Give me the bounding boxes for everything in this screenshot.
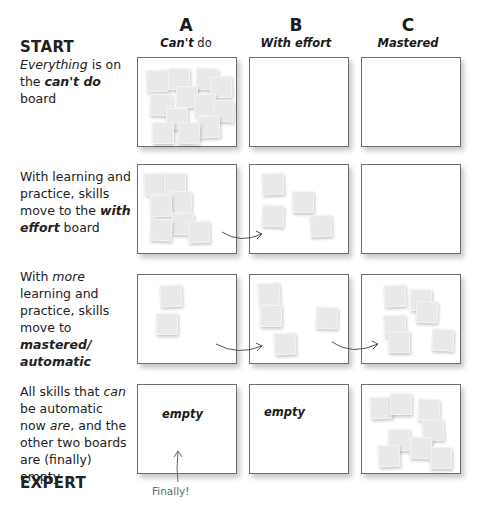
sticky-note bbox=[388, 331, 410, 353]
sticky-note bbox=[145, 69, 168, 92]
column-label: Can't do bbox=[136, 36, 236, 50]
column-letter: C bbox=[358, 16, 458, 34]
curved-arrow-icon bbox=[218, 222, 268, 246]
empty-label: empty bbox=[264, 405, 305, 419]
board: empty bbox=[137, 384, 237, 474]
column-header-c: C Mastered bbox=[358, 16, 458, 50]
board bbox=[249, 57, 349, 147]
up-arrow-icon bbox=[170, 448, 186, 484]
sticky-note bbox=[197, 115, 220, 138]
sticky-note bbox=[177, 121, 200, 144]
sticky-note bbox=[415, 300, 438, 323]
sticky-note bbox=[156, 313, 178, 335]
sticky-note bbox=[377, 444, 400, 467]
sticky-note bbox=[261, 172, 284, 195]
expert-heading: EXPERT bbox=[20, 474, 132, 492]
sticky-note bbox=[273, 332, 296, 355]
sticky-note bbox=[159, 284, 182, 307]
row-description: With learning and practice, skills move … bbox=[20, 168, 132, 236]
board bbox=[361, 384, 461, 474]
sticky-note bbox=[152, 122, 174, 144]
row-heading: START bbox=[20, 38, 132, 56]
empty-label: empty bbox=[162, 407, 203, 421]
sticky-note bbox=[431, 328, 454, 351]
finally-annotation: Finally! bbox=[152, 485, 190, 497]
sticky-note bbox=[292, 191, 314, 213]
sticky-note bbox=[260, 305, 282, 327]
sticky-note bbox=[187, 220, 210, 243]
sticky-note bbox=[169, 190, 192, 213]
board bbox=[361, 57, 461, 147]
column-label: Mastered bbox=[358, 36, 458, 50]
row-description: STARTEverything is on the can't do board bbox=[20, 38, 132, 107]
board bbox=[361, 164, 461, 254]
sticky-note bbox=[430, 447, 452, 469]
sticky-note bbox=[257, 282, 280, 305]
curved-arrow-icon bbox=[328, 336, 384, 360]
row-description: All skills that can be automatic now are… bbox=[20, 383, 132, 485]
board bbox=[137, 57, 237, 147]
sticky-note bbox=[149, 194, 172, 217]
column-header-b: B With effort bbox=[246, 16, 346, 50]
column-letter: A bbox=[136, 16, 236, 34]
sticky-note bbox=[309, 214, 332, 237]
sticky-note bbox=[383, 284, 406, 307]
column-letter: B bbox=[246, 16, 346, 34]
row-description: With more learning and practice, skills … bbox=[20, 268, 132, 370]
board: empty bbox=[249, 384, 349, 474]
curved-arrow-icon bbox=[212, 336, 268, 360]
sticky-note bbox=[390, 393, 412, 415]
column-label: With effort bbox=[246, 36, 346, 50]
column-header-a: A Can't do bbox=[136, 16, 236, 50]
sticky-note bbox=[315, 306, 338, 329]
sticky-note bbox=[149, 218, 172, 241]
